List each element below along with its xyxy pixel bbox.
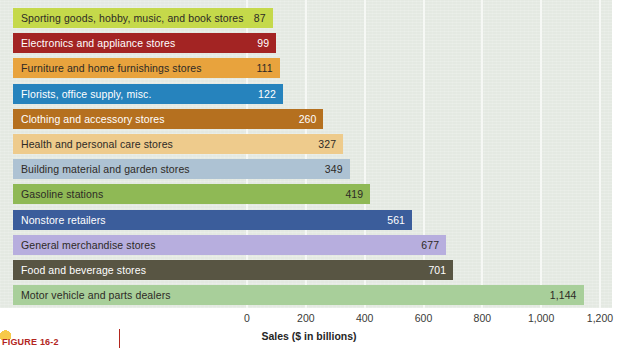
bar-category-label: Food and beverage stores (21, 264, 146, 276)
bar-value-label: 701 (418, 264, 446, 276)
bar-value-label: 677 (411, 239, 439, 251)
bar-row[interactable]: Clothing and accessory stores260 (13, 109, 323, 129)
bar-value-label: 122 (248, 88, 276, 100)
bar-value-label: 260 (289, 113, 317, 125)
bar[interactable]: Clothing and accessory stores260 (13, 109, 323, 129)
bar-row[interactable]: Sporting goods, hobby, music, and book s… (13, 8, 273, 28)
x-tick-1000: 1,000 (528, 312, 554, 324)
bar[interactable]: Nonstore retailers561 (13, 210, 412, 230)
bar[interactable]: Health and personal care stores327 (13, 134, 343, 154)
bar[interactable]: Gasoline stations419 (13, 184, 370, 204)
caption-divider (119, 329, 120, 348)
bar-category-label: Clothing and accessory stores (21, 113, 165, 125)
bar[interactable]: Motor vehicle and parts dealers1,144 (13, 285, 584, 305)
x-tick-1200: 1,200 (587, 312, 613, 324)
x-tick-800: 800 (474, 312, 492, 324)
chart-screenshot: Sporting goods, hobby, music, and book s… (0, 0, 622, 348)
x-tick-200: 200 (297, 312, 315, 324)
bar-value-label: 87 (244, 12, 266, 24)
bar[interactable]: Building material and garden stores349 (13, 159, 350, 179)
x-tick-0: 0 (244, 312, 250, 324)
bar[interactable]: Electronics and appliance stores99 (13, 33, 276, 53)
bar-category-label: Nonstore retailers (21, 214, 106, 226)
bar[interactable]: General merchandise stores677 (13, 235, 446, 255)
bar-value-label: 99 (247, 37, 269, 49)
bar-category-label: Gasoline stations (21, 188, 103, 200)
bar-value-label: 111 (246, 62, 272, 74)
bar-row[interactable]: Food and beverage stores701 (13, 260, 453, 280)
x-axis-title: Sales ($ in billions) (261, 330, 356, 342)
bar[interactable]: Food and beverage stores701 (13, 260, 453, 280)
bar-category-label: Motor vehicle and parts dealers (21, 289, 171, 301)
bar-category-label: General merchandise stores (21, 239, 156, 251)
bar-row[interactable]: Nonstore retailers561 (13, 210, 412, 230)
bar[interactable]: Florists, office supply, misc.122 (13, 84, 283, 104)
bar-category-label: Furniture and home furnishings stores (21, 62, 202, 74)
bar-value-label: 419 (335, 188, 363, 200)
bar[interactable]: Furniture and home furnishings stores111 (13, 58, 280, 78)
bar-category-label: Health and personal care stores (21, 138, 173, 150)
bar-category-label: Sporting goods, hobby, music, and book s… (21, 12, 244, 24)
bar-row[interactable]: Building material and garden stores349 (13, 159, 350, 179)
bar-row[interactable]: Electronics and appliance stores99 (13, 33, 276, 53)
bar-value-label: 327 (308, 138, 336, 150)
bar[interactable]: Sporting goods, hobby, music, and book s… (13, 8, 273, 28)
bar-value-label: 561 (377, 214, 405, 226)
bar-row[interactable]: Furniture and home furnishings stores111 (13, 58, 280, 78)
x-tick-400: 400 (356, 312, 374, 324)
bar-value-label: 1,144 (540, 289, 577, 301)
bar-category-label: Electronics and appliance stores (21, 37, 175, 49)
bar-row[interactable]: Gasoline stations419 (13, 184, 370, 204)
figure-caption: FIGURE 16-2 (2, 337, 59, 347)
bar-row[interactable]: Health and personal care stores327 (13, 134, 343, 154)
x-tick-600: 600 (415, 312, 433, 324)
x-axis: 02004006008001,0001,200 Sales ($ in bill… (0, 308, 622, 348)
bar-row[interactable]: Florists, office supply, misc.122 (13, 84, 283, 104)
bar-series: Sporting goods, hobby, music, and book s… (0, 0, 612, 308)
bar-category-label: Florists, office supply, misc. (21, 88, 151, 100)
bar-category-label: Building material and garden stores (21, 163, 190, 175)
bar-value-label: 349 (315, 163, 343, 175)
bar-row[interactable]: Motor vehicle and parts dealers1,144 (13, 285, 584, 305)
bar-row[interactable]: General merchandise stores677 (13, 235, 446, 255)
